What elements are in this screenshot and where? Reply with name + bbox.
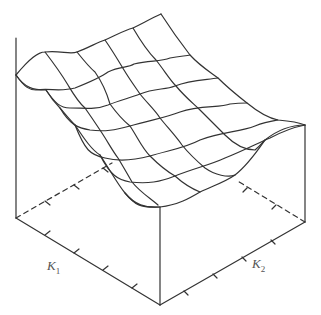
k2-label-subscript: 2 bbox=[261, 264, 266, 274]
surface-mesh-k1-lines bbox=[16, 14, 305, 207]
back-floor-edge-right bbox=[236, 180, 305, 222]
k2-axis bbox=[160, 222, 305, 305]
k1-label-subscript: 1 bbox=[56, 266, 61, 276]
k2-label-text: K bbox=[252, 256, 261, 271]
k1-label-text: K bbox=[47, 258, 56, 273]
back-ticks bbox=[45, 168, 276, 209]
surface-mesh-k2-lines bbox=[16, 14, 305, 207]
k1-axis bbox=[16, 218, 160, 305]
back-floor-edge-left bbox=[16, 163, 112, 218]
k1-axis-label: K1 bbox=[47, 258, 60, 276]
k2-axis-label: K2 bbox=[252, 256, 265, 274]
